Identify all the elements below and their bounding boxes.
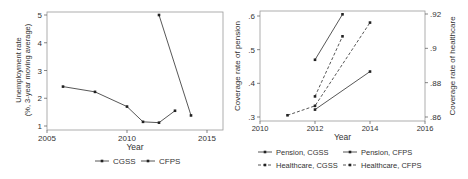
x-axis-label: Year bbox=[334, 132, 351, 142]
data-point bbox=[314, 108, 317, 111]
y-tick-label-right: .9 bbox=[430, 44, 437, 53]
x-tick-label: 2016 bbox=[417, 124, 434, 133]
y-tick-label: 3 bbox=[38, 67, 43, 76]
y-tick-label: 2 bbox=[38, 94, 43, 103]
plot-frame bbox=[47, 12, 223, 130]
plot-frame bbox=[260, 11, 425, 121]
data-point-cgss bbox=[174, 109, 177, 112]
legend-marker bbox=[349, 151, 352, 154]
legend-label: CGSS bbox=[113, 157, 136, 166]
x-axis-label: Year bbox=[126, 142, 143, 152]
data-point bbox=[341, 35, 344, 38]
y-tick-label-right: .92 bbox=[430, 10, 442, 19]
data-point-cgss bbox=[126, 105, 129, 108]
y-tick-label-left: .5 bbox=[248, 46, 255, 55]
y-tick-label: 1 bbox=[38, 122, 43, 131]
legend-marker bbox=[264, 151, 267, 154]
legend-label: CFPS bbox=[159, 157, 180, 166]
figure: 12345200520102015YearUnemployment rate(%… bbox=[0, 0, 468, 179]
x-tick-label: 2010 bbox=[252, 124, 269, 133]
y-axis-label-left: Coverage rate of pension bbox=[233, 21, 242, 111]
data-point-cgss bbox=[142, 121, 145, 124]
legend-label: Healthcare, CFPS bbox=[361, 161, 421, 170]
data-point bbox=[314, 58, 317, 61]
y-tick-label-left: .4 bbox=[248, 79, 255, 88]
data-point-cfps bbox=[158, 14, 161, 17]
legend-label: Pension, CFPS bbox=[361, 148, 412, 157]
y-tick-label-right: .86 bbox=[430, 113, 442, 122]
legend-label: Healthcare, CGSS bbox=[276, 161, 338, 170]
x-tick-label: 2012 bbox=[307, 124, 324, 133]
data-point bbox=[314, 105, 317, 108]
y-tick-label-left: .6 bbox=[248, 12, 255, 21]
data-point bbox=[369, 21, 372, 24]
legend-marker bbox=[101, 160, 104, 163]
y-axis-label-line2: (%, 3-year moving average) bbox=[23, 23, 32, 116]
unemployment-chart: 12345200520102015YearUnemployment rate(%… bbox=[14, 11, 223, 166]
y-tick-label-left: .3 bbox=[248, 113, 255, 122]
x-tick-label: 2014 bbox=[362, 124, 379, 133]
series-line-pension-cfps bbox=[315, 72, 370, 110]
data-point bbox=[369, 70, 372, 73]
legend-marker bbox=[349, 164, 352, 167]
data-point-cgss bbox=[158, 121, 161, 124]
series-line-cgss bbox=[63, 87, 175, 123]
data-point bbox=[314, 95, 317, 98]
y-tick-label: 4 bbox=[38, 39, 43, 48]
x-tick-label: 2015 bbox=[198, 134, 216, 143]
data-point bbox=[341, 13, 344, 16]
x-tick-label: 2005 bbox=[38, 134, 56, 143]
series-line-pension-cgss bbox=[315, 14, 343, 59]
data-point-cfps bbox=[190, 114, 193, 117]
coverage-chart: .3.4.5.6.86.88.9.922010201220142016YearC… bbox=[233, 10, 457, 170]
y-axis-label-line1: Unemployment rate bbox=[14, 37, 23, 102]
legend-label: Pension, CGSS bbox=[276, 148, 329, 157]
y-axis-label-right: Coverage rate of healthcare bbox=[448, 16, 457, 116]
legend-marker bbox=[147, 160, 150, 163]
y-tick-label-right: .88 bbox=[430, 79, 442, 88]
data-point-cgss bbox=[94, 91, 97, 94]
series-line-healthcare-cgss bbox=[315, 36, 343, 96]
legend-marker bbox=[264, 164, 267, 167]
data-point-cgss bbox=[62, 85, 65, 88]
series-line-cfps bbox=[159, 15, 191, 115]
data-point bbox=[286, 114, 289, 117]
y-tick-label: 5 bbox=[38, 11, 43, 20]
